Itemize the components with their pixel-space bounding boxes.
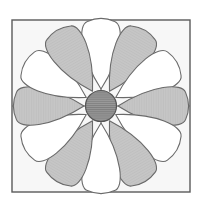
rosette-diagram	[0, 0, 203, 199]
figure-root	[0, 0, 203, 199]
center-disc	[86, 91, 117, 122]
